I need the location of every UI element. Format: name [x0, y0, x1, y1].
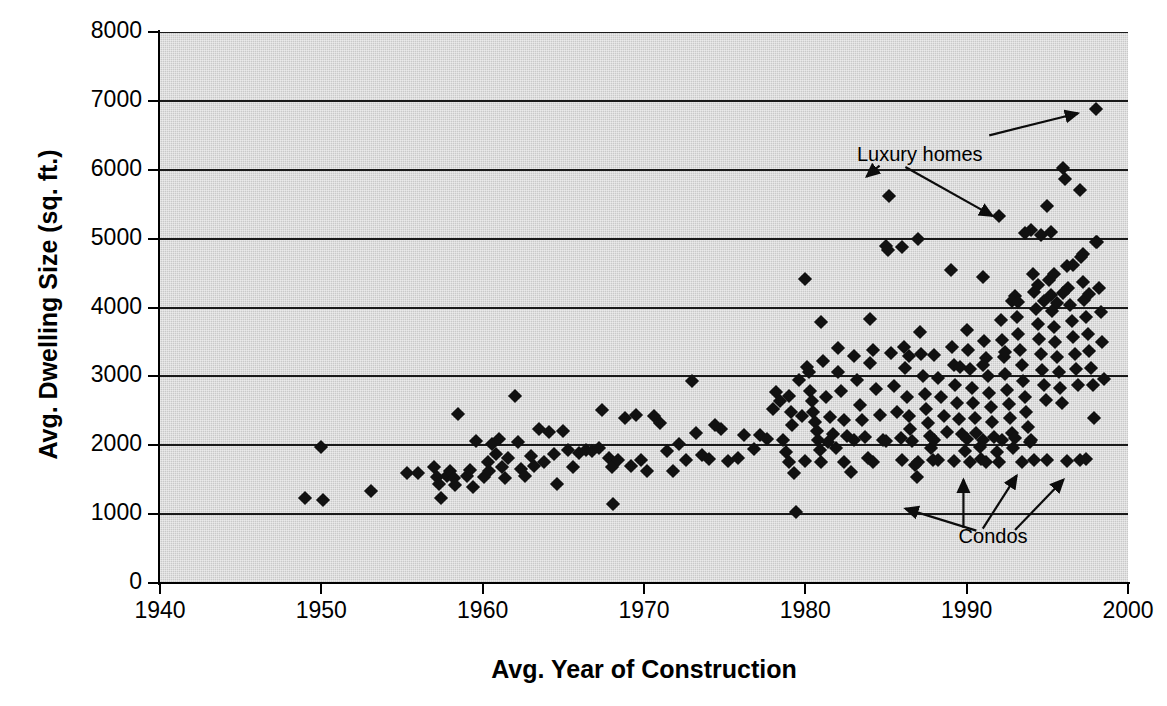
data-point [451, 406, 465, 420]
gridline [160, 100, 1128, 102]
data-point [1040, 453, 1054, 467]
data-point [785, 418, 799, 432]
gridline [160, 513, 1128, 515]
data-point [298, 491, 312, 505]
x-tick [1127, 583, 1129, 594]
x-axis-title: Avg. Year of Construction [160, 655, 1128, 684]
data-point [1021, 420, 1035, 434]
data-point [689, 426, 703, 440]
data-point [882, 189, 896, 203]
data-point [314, 440, 328, 454]
data-point [863, 311, 877, 325]
data-point [1055, 396, 1069, 410]
plot-area [160, 32, 1128, 583]
data-point [1095, 335, 1109, 349]
data-point [964, 381, 978, 395]
data-point [947, 454, 961, 468]
data-point [1079, 310, 1093, 324]
data-point [992, 209, 1006, 223]
y-tick [148, 513, 160, 515]
data-point [1071, 378, 1085, 392]
data-point [798, 454, 812, 468]
data-point [508, 389, 522, 403]
data-point [595, 403, 609, 417]
data-point [863, 356, 877, 370]
data-point [1063, 298, 1077, 312]
x-tick [320, 583, 322, 594]
data-point [1064, 314, 1078, 328]
data-point [1066, 330, 1080, 344]
data-point [960, 322, 974, 336]
x-tick [966, 583, 968, 594]
data-point [1003, 411, 1017, 425]
data-point [837, 413, 851, 427]
data-point [1031, 317, 1045, 331]
data-point [679, 453, 693, 467]
x-tick-label: 1940 [100, 597, 220, 624]
data-point [900, 390, 914, 404]
data-point [1027, 453, 1041, 467]
data-point [961, 342, 975, 356]
data-point [934, 390, 948, 404]
data-point [968, 411, 982, 425]
data-point [977, 333, 991, 347]
x-tick-label: 1980 [745, 597, 865, 624]
data-point [1019, 405, 1033, 419]
data-point [931, 371, 945, 385]
data-point [884, 346, 898, 360]
data-point [822, 410, 836, 424]
data-point [1082, 344, 1096, 358]
y-tick [148, 444, 160, 446]
x-tick [804, 583, 806, 594]
data-point [819, 390, 833, 404]
data-point [814, 315, 828, 329]
data-point [1048, 335, 1062, 349]
data-point [1081, 327, 1095, 341]
data-point [866, 343, 880, 357]
y-tick [148, 238, 160, 240]
data-point [1047, 320, 1061, 334]
y-tick-label: 7000 [22, 86, 142, 113]
data-point [913, 325, 927, 339]
data-point [945, 340, 959, 354]
data-point [998, 367, 1012, 381]
data-point [737, 428, 751, 442]
data-point [993, 313, 1007, 327]
data-point [411, 466, 425, 480]
data-point [966, 396, 980, 410]
data-point [1050, 350, 1064, 364]
y-tick-label: 6000 [22, 155, 142, 182]
data-point [919, 402, 933, 416]
data-point [834, 384, 848, 398]
data-point [927, 348, 941, 362]
data-point [918, 387, 932, 401]
y-tick-label: 1000 [22, 499, 142, 526]
data-point [434, 491, 448, 505]
data-point [1037, 378, 1051, 392]
data-point [550, 477, 564, 491]
data-point [547, 446, 561, 460]
gridline [160, 169, 1128, 171]
data-point [660, 444, 674, 458]
data-point [872, 408, 886, 422]
y-tick [148, 169, 160, 171]
data-point [1058, 172, 1072, 186]
annotation-label: Luxury homes [857, 143, 983, 166]
data-point [1039, 393, 1053, 407]
y-tick-label: 2000 [22, 430, 142, 457]
y-tick-label: 4000 [22, 293, 142, 320]
data-point [1011, 327, 1025, 341]
data-point [831, 341, 845, 355]
data-point [853, 398, 867, 412]
y-tick-label: 5000 [22, 224, 142, 251]
data-point [921, 416, 935, 430]
data-point [714, 422, 728, 436]
annotation-label: Condos [959, 525, 1028, 548]
data-point [950, 396, 964, 410]
x-tick-label: 1970 [584, 597, 704, 624]
data-point [952, 412, 966, 426]
data-point [1010, 310, 1024, 324]
x-tick-label: 1990 [907, 597, 1027, 624]
y-tick [148, 31, 160, 33]
data-point [511, 435, 525, 449]
